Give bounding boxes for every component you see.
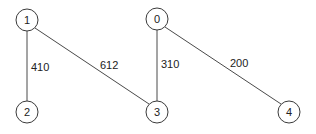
edge-weight-0-4: 200 [230, 57, 248, 69]
node-label: 2 [24, 106, 30, 118]
nodes: 1 0 2 3 4 [16, 8, 300, 123]
node-3: 3 [146, 101, 168, 123]
edge-0-4 [165, 27, 281, 104]
edge-weight-0-3: 310 [161, 58, 179, 70]
node-label: 0 [154, 13, 160, 25]
node-label: 1 [24, 14, 30, 26]
graph-diagram: 410 612 310 200 1 0 2 3 4 [0, 0, 316, 134]
edge-weight-1-2: 410 [31, 61, 49, 73]
node-4: 4 [278, 101, 300, 123]
node-label: 3 [154, 106, 160, 118]
edge-weight-1-3: 612 [100, 59, 118, 71]
edge-labels: 410 612 310 200 [31, 57, 248, 73]
node-label: 4 [286, 106, 292, 118]
node-1: 1 [16, 9, 38, 31]
edge-1-3 [35, 28, 149, 104]
node-2: 2 [16, 101, 38, 123]
node-0: 0 [146, 8, 168, 30]
